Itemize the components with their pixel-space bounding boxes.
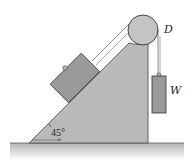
pulley-incline-diagram: 45° D W — [0, 0, 194, 164]
hanging-weight-w — [152, 73, 166, 113]
weight-label: W — [170, 84, 183, 97]
ground — [10, 143, 184, 160]
incline-wedge — [29, 42, 148, 143]
pulley-d — [128, 15, 158, 45]
pulley-label: D — [163, 23, 173, 36]
angle-label: 45° — [51, 127, 65, 138]
